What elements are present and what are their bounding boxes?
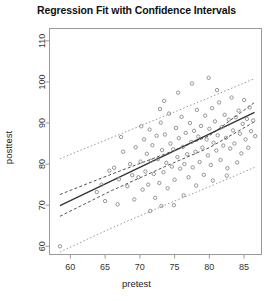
data-point [219, 158, 222, 161]
plot-border [50, 29, 262, 255]
data-point [126, 185, 129, 188]
data-point [162, 99, 165, 102]
data-point [247, 146, 250, 149]
data-point [160, 204, 163, 207]
data-point [209, 163, 212, 166]
regression-scatter-plot: 606570758085 60708090100110 [0, 0, 273, 301]
regression-fit-line [60, 112, 255, 205]
data-point [207, 76, 210, 79]
data-point [141, 188, 144, 191]
data-point [148, 128, 151, 131]
data-point [188, 121, 191, 124]
data-point [237, 109, 240, 112]
data-point [187, 176, 190, 179]
data-point [223, 113, 226, 116]
data-point [152, 172, 155, 175]
data-point [151, 144, 154, 147]
data-points [58, 76, 257, 248]
y-axis-label-text: posttest [3, 118, 14, 178]
data-point [58, 245, 61, 248]
data-point [206, 154, 209, 157]
data-point [163, 133, 166, 136]
data-point [211, 179, 214, 182]
data-point [103, 199, 106, 202]
prediction-band-lower [60, 167, 255, 252]
y-axis-ticks: 60708090100110 [37, 34, 50, 252]
data-point [204, 114, 207, 117]
data-point [170, 165, 173, 168]
data-point [117, 178, 120, 181]
data-point [245, 117, 248, 120]
y-tick-label: 70 [37, 200, 47, 210]
data-point [158, 107, 161, 110]
data-point [158, 181, 161, 184]
data-point [205, 138, 208, 141]
data-point [184, 131, 187, 134]
data-point [195, 108, 198, 111]
data-point [137, 176, 140, 179]
x-tick-label: 80 [204, 262, 214, 272]
data-point [155, 134, 158, 137]
data-point [128, 162, 131, 165]
data-point [131, 173, 134, 176]
data-point [134, 146, 137, 149]
data-point [199, 124, 202, 127]
data-point [212, 141, 215, 144]
data-point [182, 194, 185, 197]
data-point [108, 169, 111, 172]
data-point [229, 147, 232, 150]
data-point [215, 88, 218, 91]
data-point [201, 146, 204, 149]
x-tick-label: 65 [100, 262, 110, 272]
fit-line [60, 112, 255, 205]
data-point [159, 121, 162, 124]
data-point [162, 171, 165, 174]
data-point [112, 166, 115, 169]
data-point [139, 160, 142, 163]
x-tick-label: 75 [170, 262, 180, 272]
y-tick-label: 100 [37, 74, 47, 89]
data-point [227, 118, 230, 121]
data-point [121, 150, 124, 153]
y-tick-label: 80 [37, 159, 47, 169]
data-point [190, 82, 193, 85]
data-point [242, 98, 245, 101]
data-point [165, 161, 168, 164]
y-tick-label: 60 [37, 241, 47, 251]
data-point [194, 184, 197, 187]
data-point [180, 115, 183, 118]
data-point [116, 203, 119, 206]
data-point [230, 96, 233, 99]
plot-frame [50, 29, 262, 255]
data-point [202, 173, 205, 176]
data-point [191, 166, 194, 169]
data-point [240, 152, 243, 155]
data-point [241, 122, 244, 125]
data-point [176, 91, 179, 94]
data-point [217, 101, 220, 104]
data-point [166, 187, 169, 190]
data-point [185, 153, 188, 156]
chart-root: Regression Fit with Confidence Intervals… [0, 0, 273, 301]
data-point [133, 198, 136, 201]
data-point [153, 196, 156, 199]
y-axis-label: posttest [2, 0, 18, 301]
data-point [231, 129, 234, 132]
data-point [208, 127, 211, 130]
data-point [176, 155, 179, 158]
data-point [254, 134, 257, 137]
y-tick-label: 110 [37, 34, 47, 48]
data-point [213, 120, 216, 123]
data-point [198, 160, 201, 163]
data-point [183, 162, 186, 165]
data-point [222, 144, 225, 147]
x-axis-ticks: 606570758085 [65, 255, 249, 272]
data-point [192, 129, 195, 132]
data-point [160, 148, 163, 151]
data-point [177, 137, 180, 140]
data-point [119, 135, 122, 138]
interval-bands [60, 79, 255, 252]
data-point [225, 174, 228, 177]
data-point [226, 167, 229, 170]
data-point [210, 107, 213, 110]
